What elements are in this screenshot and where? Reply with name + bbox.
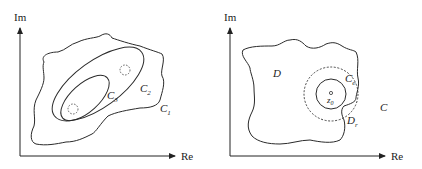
left-figure: Im Re C3 C2 C1 [14,11,193,162]
left-y-axis-label: Im [14,11,27,23]
left-x-axis-label: Re [181,150,193,162]
label-ce: Ce [345,72,355,87]
hole-lower-left [68,104,78,114]
left-axes: Im Re [14,11,193,162]
diagram-canvas: Im Re C3 C2 C1 Im Re D Ce z0 Dr C [0,0,422,169]
hole-upper-right [120,65,130,75]
label-dr: Dr [346,114,358,129]
label-d: D [272,67,281,79]
label-c: C [380,101,388,113]
contour-c2 [41,34,155,135]
right-y-axis-label: Im [224,11,237,23]
boundary-c [242,39,358,144]
label-c1: C1 [160,102,171,117]
right-x-axis-label: Re [391,150,403,162]
label-z0: z0 [326,95,334,106]
right-axes: Im Re [224,11,403,162]
right-figure: Im Re D Ce z0 Dr C [224,11,403,162]
label-c2: C2 [140,82,151,97]
